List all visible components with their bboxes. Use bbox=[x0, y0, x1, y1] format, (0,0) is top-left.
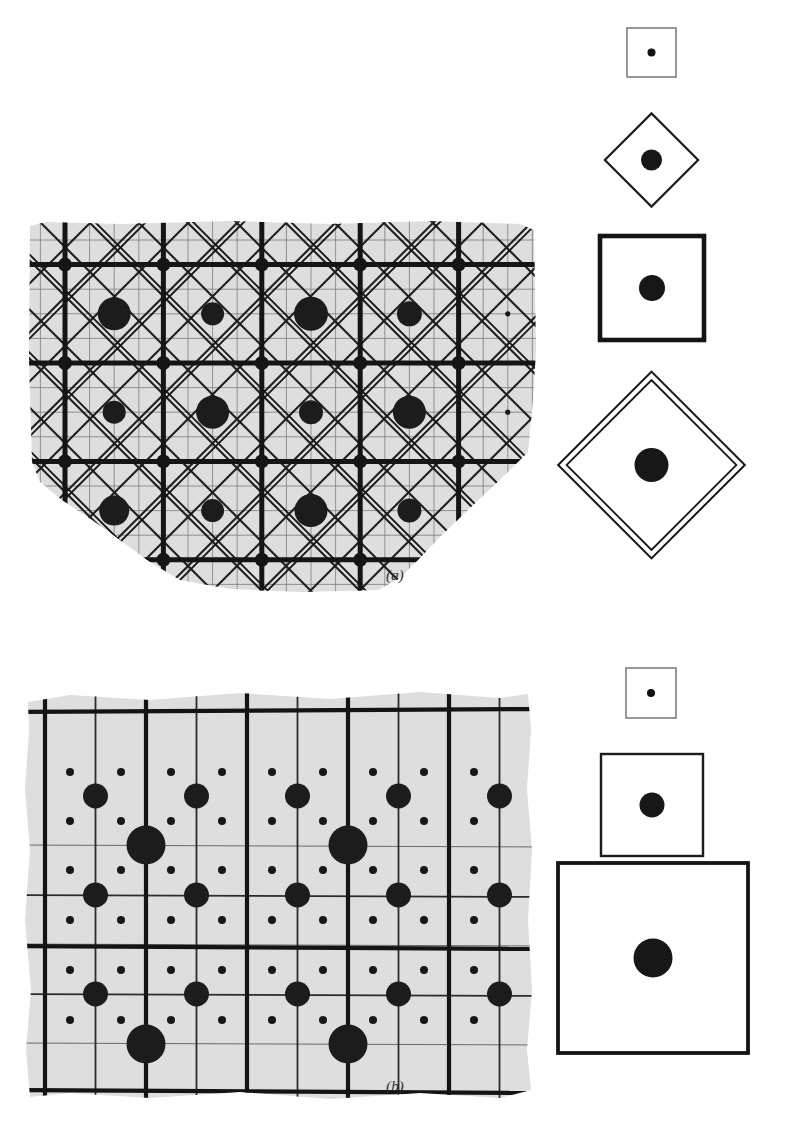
panel-b-legend bbox=[560, 660, 794, 1080]
legend-cell-a-1 bbox=[627, 28, 676, 77]
panel-a-legend bbox=[560, 20, 794, 580]
legend-cell-b-1 bbox=[626, 668, 676, 718]
panel-a-caption: (a) bbox=[355, 567, 435, 584]
legend-cell-a-4 bbox=[558, 372, 745, 559]
legend-cell-a-3 bbox=[600, 236, 704, 340]
panel-a: (a) bbox=[0, 0, 560, 600]
panel-b-caption: (b) bbox=[355, 1078, 435, 1095]
panel-b-lattice bbox=[0, 670, 560, 1120]
panel-a-lattice bbox=[0, 100, 560, 620]
legend-cell-b-3 bbox=[558, 863, 748, 1053]
legend-cell-b-2 bbox=[601, 754, 703, 856]
legend-dot-a-2 bbox=[641, 150, 662, 171]
panel-b: (b) bbox=[0, 600, 794, 1134]
figure-page: (a) bbox=[0, 0, 794, 1134]
